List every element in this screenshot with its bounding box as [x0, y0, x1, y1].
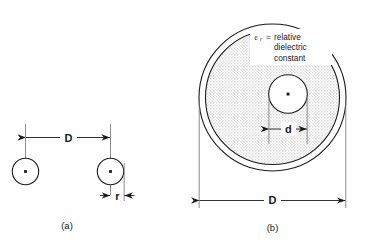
annotation-line-2: dielectric: [274, 42, 307, 52]
center-dot-inner-conductor: [287, 93, 290, 96]
dielectric-annotation: ε r = relative dielectric constant: [250, 29, 332, 65]
annotation-line-3: constant: [274, 53, 306, 63]
center-dot-right-conductor: [109, 170, 112, 173]
panel-caption-b: (b): [267, 222, 279, 233]
dimension-label-r-panel-a: r: [115, 190, 120, 202]
two-wire-and-coaxial-cross-section-figure: D r (a): [0, 0, 381, 244]
dimension-label-d-panel-b: d: [285, 123, 292, 135]
dimension-label-D-panel-a: D: [65, 132, 73, 144]
annotation-equals-sign: =: [266, 32, 271, 42]
annotation-line-1: relative: [274, 32, 301, 42]
center-dot-left-conductor: [24, 170, 27, 173]
figure-root: D r (a): [0, 0, 381, 244]
dimension-label-D-panel-b: D: [269, 194, 277, 206]
panel-caption-a: (a): [61, 220, 73, 231]
